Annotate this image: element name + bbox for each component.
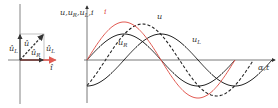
phasor-diagram: ûL û ûR ûL î [8, 4, 56, 104]
rl-circuit-diagram: ûL û ûR ûL î u,uR,uL,i α,t i u uR uL [0, 0, 278, 108]
wave-diagram: u,uR,uL,i α,t i u uR uL [60, 6, 275, 103]
label-uL-right: ûL [46, 44, 55, 54]
curve-label-i: i [104, 7, 107, 16]
label-u-hat: û [24, 39, 29, 48]
curve-label-uR: uR [118, 38, 127, 48]
wave-y-axis-label: u,uR,uL,i [60, 8, 94, 18]
label-uL-left: ûL [9, 44, 18, 54]
curve-label-uL: uL [192, 35, 201, 45]
curve-label-u: u [157, 12, 162, 21]
label-uR: ûR [31, 48, 40, 58]
label-i-hat: î [50, 63, 54, 72]
